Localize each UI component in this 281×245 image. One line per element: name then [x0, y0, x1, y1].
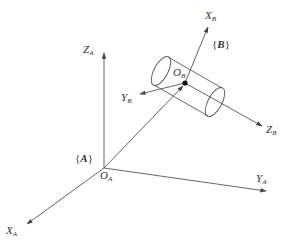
z-b-axis — [185, 83, 262, 126]
position-vector — [104, 86, 183, 168]
x-b-axis — [185, 27, 208, 83]
cylinder — [147, 54, 228, 120]
x-b-label: XB — [205, 10, 216, 23]
y-b-axis — [140, 83, 185, 94]
y-a-label: YA — [256, 173, 266, 186]
frame-a-label: {A} — [75, 153, 93, 164]
origin-a-label: OA — [100, 170, 112, 183]
origin-b-dot — [182, 80, 187, 85]
x-a-axis — [27, 168, 104, 224]
z-b-label: ZB — [266, 124, 276, 137]
y-a-axis — [104, 168, 266, 191]
coordinate-frames-diagram: ZA XA YA OA {A} XB ZB YB OB {B} — [0, 0, 281, 245]
x-a-label: XA — [6, 225, 17, 238]
y-b-label: YB — [121, 92, 131, 105]
origin-b-label: OB — [173, 67, 185, 80]
z-a-label: ZA — [83, 44, 93, 57]
frame-b-label: {B} — [212, 39, 230, 50]
diagram-graphics — [0, 0, 281, 245]
